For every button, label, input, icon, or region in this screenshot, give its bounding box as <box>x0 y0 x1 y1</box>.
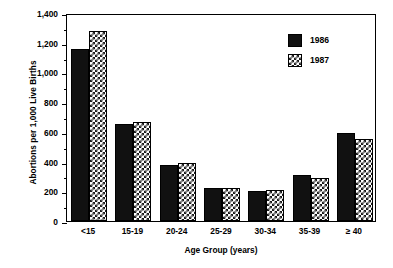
y-tick-minor <box>64 208 67 209</box>
y-tick-label: 200 <box>14 187 58 197</box>
plot-area: 1986 1987 <box>66 14 376 222</box>
y-tick-major <box>62 104 67 105</box>
y-tick-major <box>62 15 67 16</box>
legend-item-1986: 1986 <box>288 32 358 48</box>
y-tick-major <box>62 74 67 75</box>
legend-label-1987: 1987 <box>310 55 329 65</box>
bar-1986-≥ 40 <box>337 133 355 221</box>
x-tick-label: ≥ 40 <box>324 226 384 236</box>
y-tick-minor <box>64 60 67 61</box>
y-tick-minor <box>64 119 67 120</box>
y-tick-label: 800 <box>14 98 58 108</box>
legend-swatch-1986 <box>288 34 302 47</box>
y-tick-major <box>62 193 67 194</box>
y-tick-label: 600 <box>14 128 58 138</box>
y-tick-label: 400 <box>14 158 58 168</box>
y-tick-label: 0 <box>14 217 58 227</box>
y-tick-major <box>62 164 67 165</box>
y-tick-major <box>62 45 67 46</box>
legend-item-1987: 1987 <box>288 52 358 68</box>
y-tick-major <box>62 134 67 135</box>
bar-1987-≥ 40 <box>355 139 373 221</box>
y-tick-minor <box>64 89 67 90</box>
legend-swatch-1987 <box>288 54 302 67</box>
legend: 1986 1987 <box>288 32 358 72</box>
x-axis-title: Age Group (years) <box>66 245 376 255</box>
bar-chart: Abortions per 1,000 Live Births 1986 198… <box>0 0 393 268</box>
y-tick-minor <box>64 178 67 179</box>
y-tick-minor <box>64 149 67 150</box>
legend-label-1986: 1986 <box>310 35 329 45</box>
y-tick-label: 1,200 <box>14 39 58 49</box>
y-tick-label: 1,400 <box>14 9 58 19</box>
y-tick-label: 1,000 <box>14 68 58 78</box>
y-tick-major <box>62 223 67 224</box>
y-tick-minor <box>64 30 67 31</box>
